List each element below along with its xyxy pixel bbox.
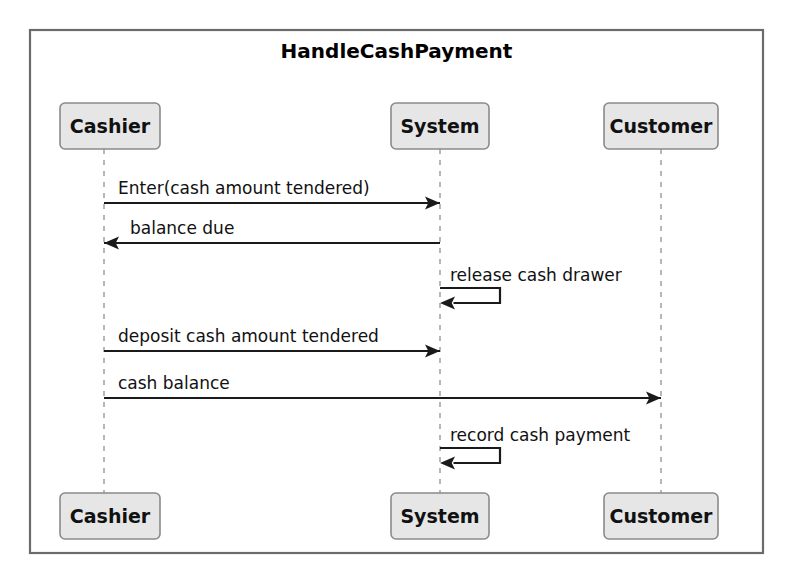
- participant-customer-bottom[interactable]: Customer: [604, 493, 718, 539]
- participant-cashier-top[interactable]: Cashier: [60, 103, 160, 149]
- participant-label: System: [400, 115, 479, 137]
- message-label: Enter(cash amount tendered): [118, 178, 370, 198]
- participant-cashier-bottom[interactable]: Cashier: [60, 493, 160, 539]
- message-label: release cash drawer: [450, 265, 622, 285]
- message-label: balance due: [130, 218, 234, 238]
- sequence-diagram-svg: HandleCashPayment Enter(cash amount tend…: [0, 0, 791, 579]
- participant-label: System: [400, 505, 479, 527]
- participant-label: Cashier: [70, 505, 151, 527]
- participant-system-bottom[interactable]: System: [391, 493, 489, 539]
- diagram-title: HandleCashPayment: [281, 39, 513, 63]
- message-label: cash balance: [118, 373, 230, 393]
- participant-label: Cashier: [70, 115, 151, 137]
- message-label: deposit cash amount tendered: [118, 326, 379, 346]
- message-label: record cash payment: [450, 425, 631, 445]
- participant-label: Customer: [610, 505, 714, 527]
- participant-label: Customer: [610, 115, 714, 137]
- participant-system-top[interactable]: System: [391, 103, 489, 149]
- sequence-diagram-canvas: HandleCashPayment Enter(cash amount tend…: [0, 0, 791, 579]
- participant-customer-top[interactable]: Customer: [604, 103, 718, 149]
